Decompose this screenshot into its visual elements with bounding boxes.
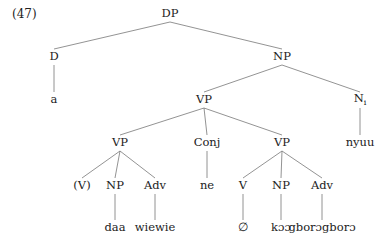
node-label: NP [106,178,124,192]
tree-node-n-i: Ni [354,93,367,107]
node-label: Adv [144,178,166,192]
tree-node-v-paren: (V) [73,180,90,192]
node-label: V [239,178,247,192]
tree-edge [281,151,282,178]
tree-edge [243,151,282,178]
tree-node-dp: DP [162,8,179,20]
tree-node-ne: ne [200,180,214,192]
node-subscript: i [364,98,367,107]
tree-edge [54,22,170,49]
tree-edge [120,151,155,178]
tree-node-daa: daa [104,222,125,234]
tree-edge [120,108,204,135]
node-label: N [354,91,364,105]
tree-edge [204,108,282,135]
node-label: D [49,49,58,63]
tree-node-vp-right: VP [274,137,290,149]
tree-node-gborogboro: gborɔgborɔ [288,222,355,234]
tree-node-v-right: V [239,180,247,192]
node-label: VP [112,135,128,149]
node-label: ∅ [238,220,248,234]
tree-node-adv-right: Adv [311,180,333,192]
node-label: gborɔgborɔ [288,220,355,234]
tree-edge [282,65,360,92]
node-label: Adv [311,178,333,192]
node-label: nyuu [346,135,375,149]
tree-node-vp-mid: VP [196,94,212,106]
tree-edge [282,151,322,178]
node-label: daa [104,220,125,234]
node-label: VP [274,135,290,149]
tree-edge [204,65,282,92]
node-label: NP [272,178,290,192]
tree-node-wiewie: wiewie [135,222,176,234]
tree-node-a: a [51,94,58,106]
tree-node-conj: Conj [194,137,221,149]
tree-node-vp-left: VP [112,137,128,149]
node-label: (V) [73,178,90,192]
node-label: wiewie [135,220,176,234]
node-label: ne [200,178,214,192]
tree-edge [82,151,120,178]
tree-edge [115,151,120,178]
node-label: NP [273,49,291,63]
node-label: Conj [194,135,221,149]
tree-edges [0,0,380,240]
tree-node-adv-left: Adv [144,180,166,192]
tree-edge [204,108,207,135]
tree-edge [170,22,282,49]
tree-node-np-left: NP [106,180,124,192]
tree-node-np-top: NP [273,51,291,63]
node-label: DP [162,6,179,20]
syntax-tree-diagram: (47) DPDaNPVPNinyuuVPConjVP(V)NPAdvneVNP… [0,0,380,240]
tree-node-empty: ∅ [238,222,248,234]
node-label: a [51,92,58,106]
tree-node-d: D [49,51,58,63]
node-label: VP [196,92,212,106]
tree-node-np-right: NP [272,180,290,192]
tree-node-nyuu: nyuu [346,137,375,149]
